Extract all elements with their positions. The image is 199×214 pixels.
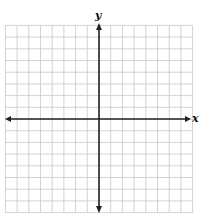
y-axis-label: y — [95, 10, 101, 21]
x-axis-left-arrow-icon — [5, 116, 11, 122]
coordinate-plane — [0, 0, 199, 214]
x-axis-label: x — [192, 113, 199, 124]
y-axis-down-arrow-icon — [96, 206, 102, 213]
y-axis-up-arrow-icon — [96, 23, 102, 30]
x-axis — [5, 116, 191, 122]
x-axis-right-arrow-icon — [185, 116, 191, 122]
y-axis — [96, 23, 102, 213]
